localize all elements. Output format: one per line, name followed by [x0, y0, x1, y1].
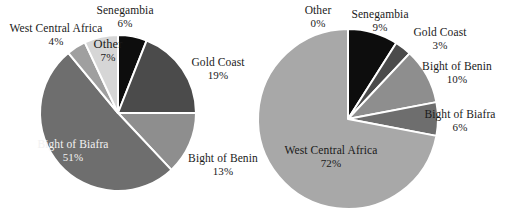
right-label-gold-coast-pct: 3% — [404, 39, 476, 52]
left-label-gold-coast-pct: 19% — [182, 69, 254, 82]
right-label-other: Other 0% — [295, 4, 341, 29]
right-label-senegambia-name: Senegambia — [351, 8, 408, 20]
left-label-gold-coast: Gold Coast 19% — [182, 56, 254, 81]
right-pie-chart — [258, 29, 438, 209]
left-label-other-pct: 7% — [85, 51, 131, 64]
right-label-gold-coast: Gold Coast 3% — [404, 26, 476, 51]
right-label-bight-of-benin: Bight of Benin 10% — [413, 60, 501, 85]
left-label-other-name: Other — [94, 37, 123, 51]
left-label-bight-of-benin: Bight of Benin 13% — [183, 152, 263, 177]
pie-chart-figure: Senegambia 6% West Central Africa 4% Oth… — [0, 0, 507, 213]
left-label-gold-coast-name: Gold Coast — [191, 56, 244, 68]
right-label-west-central-africa-pct: 72% — [271, 157, 391, 170]
right-label-bight-of-biafra-pct: 6% — [416, 121, 504, 134]
left-label-other: Other 7% — [85, 38, 131, 63]
left-label-bight-of-benin-pct: 13% — [183, 165, 263, 178]
right-label-bight-of-biafra-name: Bight of Biafra — [424, 108, 495, 120]
left-label-bight-of-biafra: Bight of Biafra 51% — [31, 138, 115, 163]
right-label-west-central-africa-name: West Central Africa — [285, 144, 378, 156]
left-label-bight-of-benin-name: Bight of Benin — [188, 152, 258, 164]
right-label-other-pct: 0% — [295, 17, 341, 30]
right-label-gold-coast-name: Gold Coast — [413, 26, 466, 38]
right-label-bight-of-benin-name: Bight of Benin — [422, 60, 492, 72]
right-label-bight-of-biafra: Bight of Biafra 6% — [416, 108, 504, 133]
right-label-west-central-africa: West Central Africa 72% — [271, 144, 391, 169]
left-label-bight-of-biafra-pct: 51% — [31, 151, 115, 164]
right-label-bight-of-benin-pct: 10% — [413, 73, 501, 86]
left-label-senegambia-name: Senegambia — [96, 4, 153, 16]
left-label-bight-of-biafra-name: Bight of Biafra — [37, 138, 108, 150]
right-label-other-name: Other — [305, 4, 332, 16]
left-label-west-central-africa-name: West Central Africa — [10, 22, 103, 34]
